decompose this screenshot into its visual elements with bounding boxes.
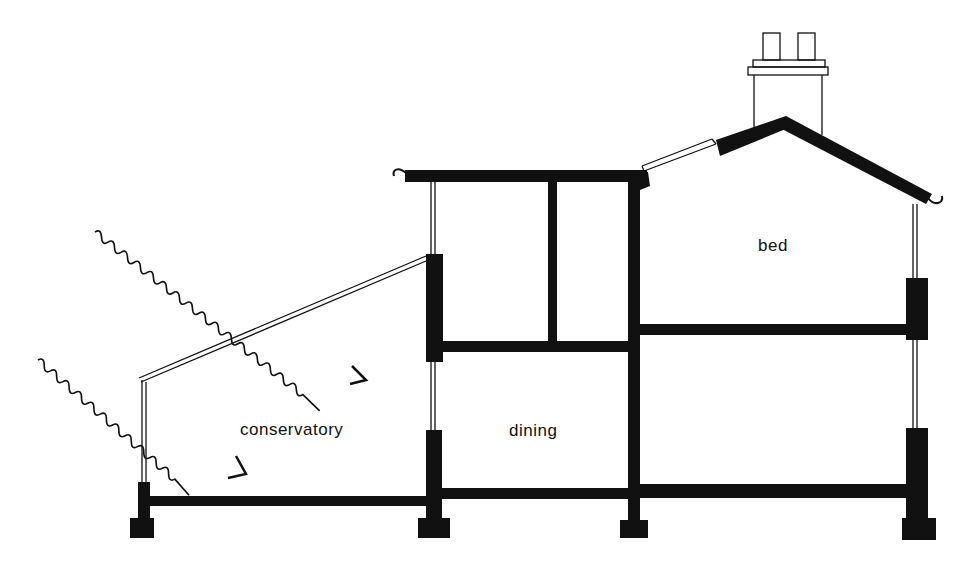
- solar-ray-2-arrowhead: [228, 456, 246, 478]
- pitched-roof-left: [716, 116, 788, 156]
- solar-ray-1-arrowhead: [350, 366, 366, 384]
- footing-left-wall: [418, 518, 450, 538]
- right-wall-base: [910, 490, 928, 520]
- footing-right-wall: [902, 518, 936, 540]
- ground-floor-dining: [440, 488, 632, 499]
- ground-floor-rear: [630, 484, 915, 498]
- window-right-upper: [913, 204, 917, 278]
- solar-ray-2-icon: [14, 358, 213, 496]
- rooflight: [642, 139, 716, 171]
- conservatory-floor: [138, 496, 428, 506]
- dining-wall-lower: [426, 430, 442, 520]
- gutter-left: [394, 169, 406, 176]
- chimney-cap-top: [753, 60, 825, 67]
- conservatory-front-glazing: [142, 380, 146, 482]
- middle-wall: [628, 176, 640, 522]
- first-floor-rear: [632, 324, 912, 335]
- chimney-pot-2: [798, 33, 815, 60]
- upstairs-partition: [548, 180, 557, 344]
- window-left-upper: [431, 182, 435, 256]
- first-floor-front: [440, 341, 632, 352]
- footing-middle-wall: [620, 520, 648, 538]
- section-drawing: [0, 0, 970, 567]
- window-left-lower: [431, 362, 435, 430]
- room-label-conservatory: conservatory: [240, 420, 343, 440]
- room-label-dining: dining: [509, 421, 557, 441]
- pitched-roof-right: [780, 116, 932, 204]
- room-label-bed: bed: [758, 236, 788, 256]
- chimney-cap: [748, 67, 828, 75]
- flat-roof: [405, 170, 647, 182]
- solar-ray-1-icon: [66, 230, 350, 411]
- chimney-pot-1: [763, 33, 780, 60]
- building-section-diagram: conservatory dining bed: [0, 0, 970, 567]
- window-right-lower: [913, 340, 917, 428]
- right-wall-upper: [906, 278, 928, 340]
- conservatory-roof-glazing: [139, 256, 426, 382]
- footing-conservatory: [130, 518, 154, 538]
